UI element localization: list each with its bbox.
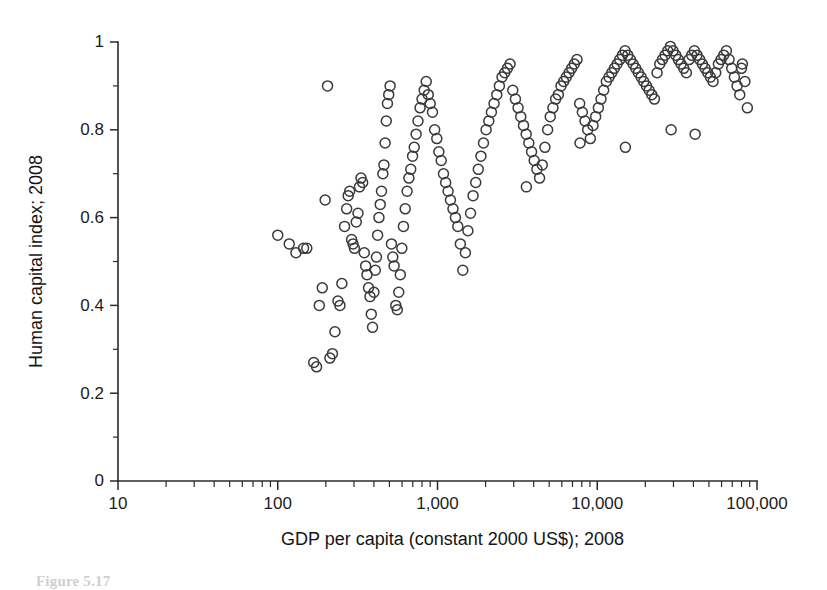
data-point: [540, 142, 550, 152]
y-axis-title: Human capital index; 2008: [26, 155, 46, 368]
x-axis-title: GDP per capita (constant 2000 US$); 2008: [281, 529, 624, 549]
data-point: [314, 300, 324, 310]
data-point: [585, 134, 595, 144]
x-tick-label: 100,000: [726, 494, 787, 513]
data-point: [366, 309, 376, 319]
data-point: [273, 230, 283, 240]
data-point: [476, 151, 486, 161]
data-point: [460, 248, 470, 258]
data-point: [370, 265, 380, 275]
data-point: [337, 278, 347, 288]
data-point: [291, 248, 301, 258]
data-point: [473, 164, 483, 174]
data-point: [368, 322, 378, 332]
y-tick-label: 1: [95, 32, 104, 51]
data-point: [342, 204, 352, 214]
data-point: [575, 138, 585, 148]
y-tick-label: 0: [95, 471, 104, 490]
data-point: [740, 77, 750, 87]
axes: [110, 42, 757, 490]
data-point: [463, 226, 473, 236]
data-point: [453, 221, 463, 231]
x-tick-label: 1,000: [416, 494, 459, 513]
data-point: [742, 103, 752, 113]
data-point: [535, 173, 545, 183]
data-point: [397, 243, 407, 253]
data-point: [427, 107, 437, 117]
data-point: [436, 156, 446, 166]
data-point: [690, 129, 700, 139]
data-point: [375, 199, 385, 209]
data-point: [374, 213, 384, 223]
data-point: [376, 186, 386, 196]
data-point: [340, 221, 350, 231]
data-point: [543, 125, 553, 135]
data-point: [521, 182, 531, 192]
x-tick-label: 100: [264, 494, 292, 513]
data-point: [371, 252, 381, 262]
data-point: [373, 230, 383, 240]
data-point: [411, 129, 421, 139]
y-tick-label: 0.6: [80, 208, 104, 227]
data-point: [380, 138, 390, 148]
data-point: [458, 265, 468, 275]
axis-labels: 00.20.40.60.81101001,00010,000100,000GDP…: [26, 32, 788, 549]
data-point: [394, 287, 404, 297]
x-tick-label: 10: [109, 494, 128, 513]
data-point: [317, 283, 327, 293]
data-point: [666, 125, 676, 135]
data-point: [386, 239, 396, 249]
data-point: [395, 270, 405, 280]
data-point: [402, 186, 412, 196]
data-point: [471, 177, 481, 187]
data-point: [735, 90, 745, 100]
data-point: [413, 116, 423, 126]
x-tick-label: 10,000: [571, 494, 623, 513]
data-point: [323, 81, 333, 91]
data-point: [398, 221, 408, 231]
data-point: [478, 138, 488, 148]
data-point: [400, 204, 410, 214]
data-point: [330, 327, 340, 337]
y-tick-label: 0.4: [80, 296, 104, 315]
data-point: [381, 116, 391, 126]
y-tick-label: 0.8: [80, 120, 104, 139]
y-tick-label: 0.2: [80, 384, 104, 403]
data-point: [620, 142, 630, 152]
data-point: [359, 248, 369, 258]
data-point: [320, 195, 330, 205]
data-point: [468, 191, 478, 201]
data-point: [466, 208, 476, 218]
figure-caption: Figure 5.17: [36, 573, 110, 590]
data-point: [284, 239, 294, 249]
plot-area: [273, 41, 753, 371]
